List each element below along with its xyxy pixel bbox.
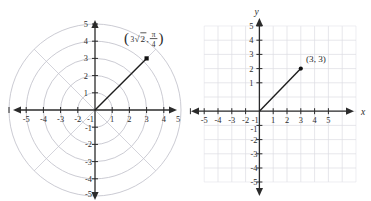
polar-point-label: ( 3 √ 2 , π 4 ) (124, 30, 164, 49)
polar-point-marker (145, 56, 149, 60)
cartesian-xtick--2: -2 (242, 116, 249, 125)
polar-ytick--3: -3 (85, 158, 92, 167)
figure-container: -5 -4 -3 -2 -1 1 2 3 4 5 5 4 3 2 1 -1 -2… (0, 0, 371, 201)
cartesian-xtick-2: 2 (285, 116, 289, 125)
cartesian-ytick-4: 4 (249, 36, 254, 45)
cartesian-x-axis-label: x (360, 107, 366, 117)
cartesian-ytick--5: -5 (251, 178, 258, 187)
cartesian-ytick--2: -2 (251, 136, 258, 145)
polar-label-close-paren: ) (159, 30, 164, 47)
polar-ytick--1: -1 (85, 124, 92, 133)
cartesian-point-label: (3, 3) (306, 54, 326, 64)
cartesian-ytick-3: 3 (249, 50, 253, 59)
polar-xtick-1: 1 (110, 115, 114, 124)
cartesian-axes (191, 18, 354, 196)
cartesian-ytick-2: 2 (249, 65, 253, 74)
polar-ytick-2: 2 (84, 72, 88, 81)
cartesian-xtick-3: 3 (299, 116, 303, 125)
polar-label-open-paren: ( (124, 30, 129, 47)
cartesian-x-tick-labels: -5 -4 -3 -2 -1 1 2 3 4 5 (201, 116, 331, 125)
polar-label-comma: , (147, 34, 149, 44)
cartesian-ytick-5: 5 (249, 22, 253, 31)
polar-xtick--1: -1 (87, 115, 94, 124)
polar-xtick-3: 3 (145, 115, 149, 124)
polar-xtick--4: -4 (40, 115, 48, 124)
cartesian-y-tick-labels: 5 4 3 2 1 -1 -2 -3 -4 -5 (249, 22, 258, 187)
cartesian-xtick-1: 1 (271, 116, 275, 125)
cartesian-ytick--4: -4 (251, 164, 259, 173)
cartesian-grid (204, 26, 356, 182)
polar-xtick--5: -5 (23, 115, 30, 124)
polar-label-radicand: 2 (141, 34, 146, 44)
polar-ytick-1: 1 (84, 89, 88, 98)
cartesian-plot: -5 -4 -3 -2 -1 1 2 3 4 5 5 4 3 2 1 -1 -2… (185, 0, 371, 201)
polar-xtick-2: 2 (127, 115, 131, 124)
cartesian-ytick-1: 1 (249, 79, 253, 88)
polar-ytick-5: 5 (84, 20, 88, 29)
cartesian-xtick-5: 5 (326, 116, 330, 125)
polar-ytick--2: -2 (85, 140, 92, 149)
polar-xtick-4: 4 (162, 115, 167, 124)
polar-label-fraction-numerator: π (152, 30, 156, 39)
polar-xtick--2: -2 (74, 115, 81, 124)
polar-xtick-5: 5 (176, 115, 180, 124)
polar-ytick-3: 3 (84, 54, 88, 63)
cartesian-xtick-4: 4 (313, 116, 318, 125)
polar-ytick--5: -5 (85, 190, 92, 199)
cartesian-xtick--4: -4 (215, 116, 223, 125)
polar-y-tick-labels: 5 4 3 2 1 -1 -2 -3 -4 -5 (84, 20, 93, 199)
polar-ytick--4: -4 (85, 175, 93, 184)
polar-ray-to-point (95, 58, 147, 110)
cartesian-ray-to-point (259, 69, 300, 112)
cartesian-xtick--3: -3 (228, 116, 235, 125)
cartesian-ytick--3: -3 (251, 150, 258, 159)
polar-label-fraction-denominator: 4 (152, 40, 156, 49)
polar-xtick--3: -3 (57, 115, 64, 124)
cartesian-xtick--5: -5 (201, 116, 208, 125)
cartesian-point-marker (299, 67, 303, 71)
cartesian-y-axis-label: y (253, 7, 259, 17)
polar-plot: -5 -4 -3 -2 -1 1 2 3 4 5 5 4 3 2 1 -1 -2… (0, 0, 186, 201)
cartesian-ytick--1: -1 (251, 125, 258, 134)
